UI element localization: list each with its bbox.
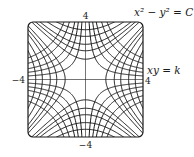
curve bbox=[0, 87, 85, 157]
curve bbox=[0, 115, 172, 157]
tick-bottom: −4 bbox=[79, 140, 93, 150]
label-family1: x² − y² = C bbox=[134, 6, 193, 18]
curve bbox=[86, 82, 172, 157]
curve bbox=[106, 0, 174, 157]
curve bbox=[0, 0, 65, 157]
tick-right: 4 bbox=[145, 76, 151, 86]
curve bbox=[129, 0, 182, 157]
tick-top: 4 bbox=[83, 11, 89, 21]
hyperbola-figure: 4 −4 −4 4 x² − y² = C xy = k bbox=[0, 0, 194, 157]
label-family2: xy = k bbox=[147, 64, 181, 76]
curve bbox=[0, 0, 85, 72]
curve bbox=[0, 90, 85, 157]
curve bbox=[86, 87, 172, 157]
tick-left: −4 bbox=[12, 75, 26, 85]
curve bbox=[0, 82, 85, 157]
